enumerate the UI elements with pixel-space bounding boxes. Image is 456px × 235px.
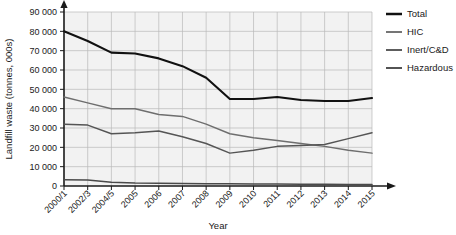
y-tick-label: 80 000 [29,27,57,37]
chart-canvas: 010 00020 00030 00040 00050 00060 00070 … [0,0,456,235]
y-tick-label: 60 000 [29,65,57,75]
y-tick-label: 70 000 [29,46,57,56]
y-tick-label: 0 [52,181,57,191]
x-tick-label: 2014 [332,188,353,209]
legend-label-hazardous: Hazardous [407,62,453,73]
x-tick-label: 2005 [119,188,140,209]
y-tick-label: 20 000 [29,143,57,153]
x-tick-label: 2002/3 [66,188,93,215]
x-axis-title: Year [208,220,227,231]
x-tick-label: 2004/5 [90,188,117,215]
legend-label-inert-c-d: Inert/C&D [407,44,449,55]
x-tick-label: 2000/1 [42,188,69,215]
x-tick-label: 2009 [214,188,235,209]
x-tick-label: 2012 [285,188,306,209]
y-tick-label: 40 000 [29,104,57,114]
x-tick-label: 2010 [237,188,258,209]
x-tick-label: 2006 [142,188,163,209]
legend-label-hic: HIC [407,26,424,37]
y-axis-title: Landfill waste (tonnes, 000s) [3,39,14,160]
x-tick-label: 2013 [308,188,329,209]
y-tick-label: 90 000 [29,7,57,17]
x-tick-label: 2011 [261,188,282,209]
y-tick-label: 30 000 [29,123,57,133]
y-tick-label: 50 000 [29,85,57,95]
landfill-waste-chart: 010 00020 00030 00040 00050 00060 00070 … [0,0,456,235]
legend-label-total: Total [407,8,427,19]
y-tick-label: 10 000 [29,162,57,172]
y-axis-arrow [60,0,67,8]
plot-background [64,12,372,186]
x-tick-label: 2008 [190,188,211,209]
x-tick-label: 2007 [166,188,187,209]
x-axis-arrow [387,182,396,189]
x-tick-label: 2015 [356,188,377,209]
